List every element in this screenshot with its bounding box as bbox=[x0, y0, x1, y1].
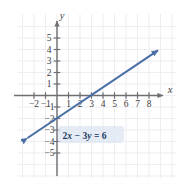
x-tick-label: 1 bbox=[66, 99, 71, 109]
y-tick-label: 1 bbox=[47, 79, 52, 89]
x-tick-label: 5 bbox=[112, 99, 117, 109]
x-axis-label: x bbox=[167, 84, 173, 95]
y-tick-label: 5 bbox=[47, 33, 52, 43]
y-tick-label: 3 bbox=[47, 56, 52, 66]
coordinate-plane: −2 −1 1 2 3 4 5 6 7 8 5 4 3 2 1 −1 −2 −3… bbox=[0, 0, 184, 189]
equation-var-x: x bbox=[66, 131, 72, 141]
x-tick-label: 8 bbox=[147, 99, 152, 109]
graph-figure: −2 −1 1 2 3 4 5 6 7 8 5 4 3 2 1 −1 −2 −3… bbox=[0, 0, 184, 189]
equation-operator: − bbox=[75, 131, 80, 141]
y-tick-label: −4 bbox=[44, 137, 54, 147]
y-tick-label: −5 bbox=[44, 148, 54, 158]
equation-var-y: y bbox=[86, 131, 92, 141]
x-tick-label: 3 bbox=[89, 99, 94, 109]
x-tick-label: 6 bbox=[124, 99, 129, 109]
equation-constant: 6 bbox=[102, 131, 107, 141]
equation-equals: = bbox=[94, 131, 99, 141]
x-tick-label: 7 bbox=[135, 99, 140, 109]
x-tick-label: 4 bbox=[101, 99, 106, 109]
y-tick-label: −1 bbox=[44, 102, 54, 112]
x-tick-label: −2 bbox=[29, 99, 39, 109]
y-tick-label: 2 bbox=[47, 68, 52, 78]
y-tick-label: 4 bbox=[47, 45, 52, 55]
y-axis-label: y bbox=[59, 10, 65, 21]
